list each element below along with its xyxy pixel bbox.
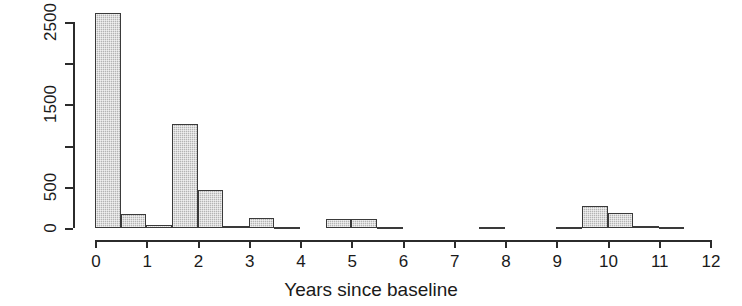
y-axis-tick xyxy=(65,187,73,189)
x-axis-tick xyxy=(505,240,507,248)
histogram-bar xyxy=(479,227,505,229)
y-axis-tick-minor xyxy=(65,146,73,148)
y-axis-tick xyxy=(65,228,73,230)
x-axis-tick xyxy=(146,240,148,248)
x-axis-tick-label: 5 xyxy=(337,252,367,272)
x-axis-tick-label: 2 xyxy=(184,252,214,272)
x-axis-tick-label: 8 xyxy=(491,252,521,272)
y-axis-tick-label: 2500 xyxy=(41,0,61,45)
histogram-figure: Frequency 0123456789101112050015002500 Y… xyxy=(0,0,742,306)
x-axis-tick xyxy=(710,240,712,248)
x-axis-tick xyxy=(608,240,610,248)
histogram-bar xyxy=(146,225,172,228)
x-axis-tick-label: 1 xyxy=(132,252,162,272)
plot-area: 0123456789101112050015002500 xyxy=(0,0,742,306)
x-axis-tick xyxy=(95,240,97,248)
histogram-bar xyxy=(633,226,659,228)
histogram-bar xyxy=(121,214,147,228)
histogram-bar xyxy=(172,124,198,228)
x-axis-tick xyxy=(403,240,405,248)
y-axis-tick-label: 1500 xyxy=(41,81,61,127)
x-axis-tick xyxy=(556,240,558,248)
histogram-bar xyxy=(198,190,224,228)
x-axis-tick-label: 0 xyxy=(81,252,111,272)
y-axis-tick-label: 500 xyxy=(41,164,61,210)
histogram-bar xyxy=(326,219,352,228)
histogram-bar xyxy=(351,219,377,228)
x-axis-tick xyxy=(300,240,302,248)
x-axis-tick xyxy=(198,240,200,248)
x-axis-tick-label: 3 xyxy=(235,252,265,272)
x-axis-tick-label: 10 xyxy=(594,252,624,272)
x-axis-tick-label: 7 xyxy=(440,252,470,272)
histogram-bar xyxy=(582,206,608,228)
x-axis-tick-label: 4 xyxy=(286,252,316,272)
histogram-bar xyxy=(556,227,582,229)
histogram-bar xyxy=(608,213,634,228)
histogram-bar xyxy=(249,218,275,228)
y-axis-tick-minor xyxy=(65,63,73,65)
x-axis-tick xyxy=(249,240,251,248)
histogram-bar xyxy=(95,13,121,228)
y-axis-tick-label: 0 xyxy=(41,205,61,251)
x-axis-tick-label: 9 xyxy=(542,252,572,272)
x-axis-tick-label: 12 xyxy=(696,252,726,272)
x-axis-tick xyxy=(454,240,456,248)
histogram-bar xyxy=(659,227,685,229)
y-axis-tick xyxy=(65,104,73,106)
y-axis-tick xyxy=(65,22,73,24)
histogram-bar xyxy=(223,226,249,228)
x-axis-tick-label: 6 xyxy=(389,252,419,272)
histogram-bar xyxy=(274,227,300,229)
y-axis-line xyxy=(73,22,75,228)
x-axis-tick xyxy=(351,240,353,248)
x-axis-tick xyxy=(659,240,661,248)
histogram-bar xyxy=(377,227,403,229)
x-axis-title: Years since baseline xyxy=(0,279,742,301)
x-axis-tick-label: 11 xyxy=(645,252,675,272)
